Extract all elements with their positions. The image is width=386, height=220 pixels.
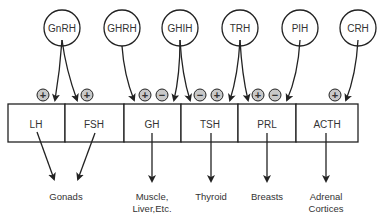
svg-text:+: +: [332, 89, 338, 101]
gh-label: GH: [145, 119, 160, 130]
plus-icon: +: [329, 89, 341, 101]
ghrh-label: GHRH: [107, 23, 136, 34]
hypothalamic-pituitary-diagram: GnRH GHRH GHIH TRH PIH CRH + + + − −: [0, 0, 386, 220]
svg-text:+: +: [214, 89, 220, 101]
svg-text:−: −: [159, 89, 165, 101]
target-muscle-line2: Liver,Etc.: [132, 203, 171, 214]
target-labels: Gonads Muscle, Liver,Etc. Thyroid Breast…: [49, 191, 343, 214]
plus-icon: +: [37, 89, 49, 101]
target-gonads: Gonads: [49, 191, 83, 202]
arrow-trh-tsh: [230, 40, 240, 100]
arrow-ghih-gh: [174, 40, 180, 100]
arrow-ghrh-gh: [122, 46, 134, 100]
arrow-gnrh-lh: [55, 40, 62, 100]
trh-label: TRH: [230, 23, 251, 34]
svg-text:−: −: [197, 89, 203, 101]
target-adrenal-line2: Cortices: [309, 203, 344, 214]
acth-label: ACTH: [313, 119, 340, 130]
arrow-crh-acth: [346, 40, 358, 100]
plus-icon: +: [139, 89, 151, 101]
target-breasts: Breasts: [251, 191, 283, 202]
svg-text:+: +: [142, 89, 148, 101]
plus-icon: +: [81, 89, 93, 101]
arrow-trh-prl: [240, 40, 248, 100]
svg-text:−: −: [272, 89, 278, 101]
plus-icon: +: [252, 89, 264, 101]
crh-label: CRH: [347, 23, 369, 34]
svg-text:+: +: [255, 89, 261, 101]
plus-icon: +: [211, 89, 223, 101]
prl-label: PRL: [257, 119, 277, 130]
pih-label: PIH: [292, 23, 309, 34]
fsh-label: FSH: [84, 119, 104, 130]
target-adrenal-line1: Adrenal: [310, 191, 343, 202]
arrow-gnrh-fsh: [62, 40, 77, 100]
arrow-ghih-tsh: [180, 40, 190, 100]
target-thyroid: Thyroid: [195, 191, 227, 202]
svg-text:+: +: [84, 89, 90, 101]
minus-icon: −: [194, 89, 206, 101]
pituitary-hormone-row: LH FSH GH TSH PRL ACTH: [8, 104, 358, 142]
arrow-pih-prl: [287, 40, 300, 100]
svg-text:+: +: [40, 89, 46, 101]
regulation-arrows: [55, 40, 358, 100]
ghih-label: GHIH: [168, 23, 193, 34]
minus-icon: −: [269, 89, 281, 101]
minus-icon: −: [156, 89, 168, 101]
lh-label: LH: [30, 119, 43, 130]
target-muscle-line1: Muscle,: [136, 191, 169, 202]
releasing-hormone-ghrh: GHRH: [104, 10, 140, 46]
tsh-label: TSH: [200, 119, 220, 130]
gnrh-label: GnRH: [48, 23, 76, 34]
